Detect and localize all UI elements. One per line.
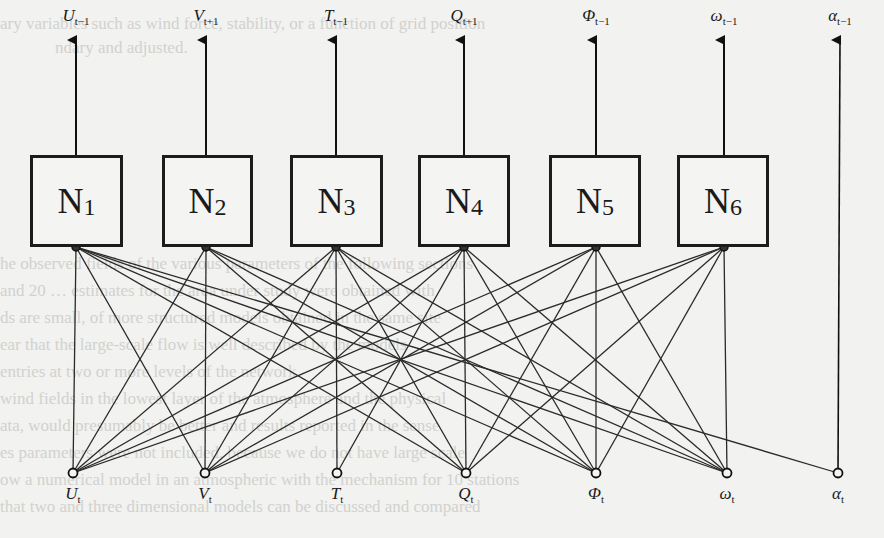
network-label: N (576, 180, 602, 222)
network-label-subscript: 6 (730, 194, 742, 221)
input-label-symbol: Q (458, 484, 470, 503)
output-label-symbol: Φ (582, 6, 595, 25)
output-label: αt−1 (828, 6, 852, 27)
input-label-subscript: t (841, 493, 844, 505)
connection-edge (73, 247, 724, 473)
input-label-subscript: t (78, 493, 81, 505)
input-node-dot (462, 469, 471, 478)
input-label-subscript: t (601, 493, 604, 505)
neural-network-diagram: ary variables such as wind force, stabil… (0, 0, 884, 538)
input-label-symbol: ω (719, 484, 731, 503)
network-label-subscript: 1 (84, 194, 96, 221)
network-box-n4: N4 (418, 155, 510, 247)
input-node-dot (69, 469, 78, 478)
output-label-subscript: t−1 (595, 15, 610, 27)
input-node-dot (333, 469, 342, 478)
network-box-n6: N6 (677, 155, 769, 247)
network-label-subscript: 3 (344, 194, 356, 221)
connection-edge (73, 247, 76, 473)
input-label: Ut (65, 484, 80, 505)
output-label-subscript: t−1 (333, 15, 348, 27)
network-label-subscript: 4 (471, 194, 483, 221)
output-label: Tt−1 (324, 6, 348, 27)
input-label-subscript: t (340, 493, 343, 505)
input-label: Tt (331, 484, 344, 505)
output-label-subscript: t−1 (837, 15, 852, 27)
output-label-subscript: t+1 (463, 15, 478, 27)
connection-edge (466, 247, 724, 473)
output-label-symbol: U (62, 6, 74, 25)
input-label-symbol: U (65, 484, 77, 503)
input-node-dot (723, 469, 732, 478)
output-label-symbol: ω (711, 6, 723, 25)
output-label: Qt+1 (450, 6, 477, 27)
output-label-symbol: V (193, 6, 203, 25)
input-label-symbol: α (832, 484, 841, 503)
network-label: N (704, 180, 730, 222)
connection-edge (336, 247, 337, 473)
output-label: Φt−1 (582, 6, 610, 27)
network-label: N (445, 180, 471, 222)
network-box-n5: N5 (549, 155, 641, 247)
input-label: ωt (719, 484, 734, 505)
input-label-symbol: Φ (588, 484, 601, 503)
input-label: Φt (588, 484, 604, 505)
input-label-symbol: V (198, 484, 208, 503)
input-label: Vt (198, 484, 211, 505)
output-label-subscript: t−1 (723, 15, 738, 27)
input-node-dot (834, 469, 843, 478)
output-label-subscript: t+1 (204, 15, 219, 27)
connection-edge (73, 247, 464, 473)
input-node-dot (201, 469, 210, 478)
network-label: N (318, 180, 344, 222)
input-label-subscript: t (471, 493, 474, 505)
input-node-dot (592, 469, 601, 478)
connection-edge (205, 247, 336, 473)
output-label: Vt+1 (193, 6, 218, 27)
output-label-symbol: Q (450, 6, 462, 25)
network-box-n2: N2 (162, 155, 253, 247)
output-label-subscript: t−1 (75, 15, 90, 27)
output-label: Ut−1 (62, 6, 89, 27)
input-label-subscript: t (731, 493, 734, 505)
input-label: αt (832, 484, 844, 505)
network-label-subscript: 5 (602, 194, 614, 221)
network-box-n1: N1 (30, 155, 123, 247)
input-label-subscript: t (209, 493, 212, 505)
output-label: ωt−1 (711, 6, 738, 27)
input-label: Qt (458, 484, 473, 505)
connection-lines (0, 0, 884, 538)
network-label: N (58, 180, 84, 222)
connection-edge (76, 247, 838, 473)
network-label: N (189, 180, 215, 222)
alpha-passthrough-arrow (838, 40, 840, 473)
network-box-n3: N3 (290, 155, 383, 247)
network-label-subscript: 2 (215, 194, 227, 221)
output-label-symbol: α (828, 6, 837, 25)
